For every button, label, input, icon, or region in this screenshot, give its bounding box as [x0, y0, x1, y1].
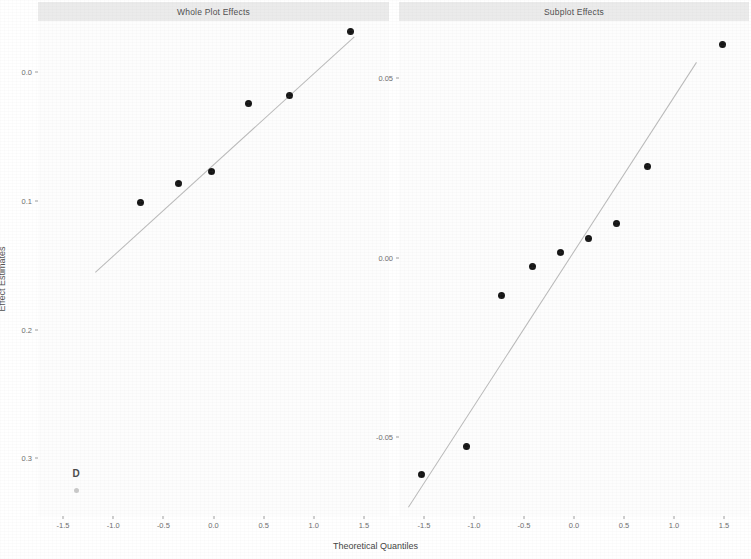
panel-subplot-effects	[399, 21, 749, 516]
data-point	[585, 235, 592, 242]
panel-title-subplot: Subplot Effects	[544, 7, 604, 17]
panel-title-whole-plot: Whole Plot Effects	[177, 7, 250, 17]
data-point	[644, 163, 651, 170]
x-axis-tick-label: -1.5	[418, 521, 431, 530]
x-axis-tick	[724, 516, 725, 519]
y-axis-tick-label: 0.2	[4, 325, 32, 334]
y-axis-tick	[396, 257, 399, 258]
x-axis-tick-label: 0.0	[569, 521, 579, 530]
qq-reference-line	[95, 36, 354, 272]
y-axis-tick	[35, 458, 38, 459]
y-axis-tick-label: 0.3	[4, 454, 32, 463]
x-axis-tick-label: 1.0	[309, 521, 319, 530]
data-point	[557, 249, 564, 256]
x-axis-tick	[313, 516, 314, 519]
data-point	[347, 28, 354, 35]
x-axis-tick	[163, 516, 164, 519]
x-axis-tick	[213, 516, 214, 519]
data-point	[463, 443, 470, 450]
x-axis-tick-label: -1.0	[468, 521, 481, 530]
y-axis-tick	[35, 72, 38, 73]
data-point	[245, 100, 252, 107]
y-axis-tick-label: 0.0	[4, 68, 32, 77]
panel-strip-whole-plot: Whole Plot Effects	[38, 2, 389, 21]
x-axis-tick-label: -0.5	[518, 521, 531, 530]
x-axis-tick	[474, 516, 475, 519]
x-axis-tick	[624, 516, 625, 519]
x-axis-tick	[363, 516, 364, 519]
data-point	[74, 488, 79, 493]
x-axis-tick-label: 1.5	[359, 521, 369, 530]
x-axis-tick-label: -1.5	[57, 521, 70, 530]
x-axis-tick	[524, 516, 525, 519]
data-point	[137, 199, 144, 206]
qq-plot-figure: Whole Plot Effects D Subplot Effects Eff…	[0, 0, 751, 559]
x-axis-tick-label: 0.0	[208, 521, 218, 530]
data-point	[719, 41, 726, 48]
y-axis-title: Effect Estimates	[0, 247, 7, 312]
y-axis-tick	[396, 437, 399, 438]
x-axis-tick-label: 1.0	[669, 521, 679, 530]
data-point	[208, 168, 215, 175]
x-axis-tick-label: -0.5	[157, 521, 170, 530]
x-axis-tick-label: 0.5	[258, 521, 268, 530]
data-point	[613, 220, 620, 227]
x-axis-tick	[63, 516, 64, 519]
y-axis-tick	[35, 201, 38, 202]
x-axis-tick	[113, 516, 114, 519]
x-axis-tick	[674, 516, 675, 519]
data-point	[286, 92, 293, 99]
y-axis-tick-label: -0.05	[365, 433, 393, 442]
data-point	[418, 471, 425, 478]
y-axis-tick	[396, 78, 399, 79]
x-axis-tick-label: 0.5	[619, 521, 629, 530]
data-point	[529, 263, 536, 270]
panel-whole-plot-effects: D	[38, 21, 389, 516]
point-annotation-d: D	[72, 468, 79, 479]
x-axis-tick-label: 1.5	[719, 521, 729, 530]
x-axis-tick-label: -1.0	[107, 521, 120, 530]
y-axis-tick-label: 0.05	[365, 74, 393, 83]
y-axis-tick-label: 0.00	[365, 253, 393, 262]
x-axis-title: Theoretical Quantiles	[0, 541, 751, 551]
qq-reference-line	[408, 62, 697, 507]
data-point	[498, 292, 505, 299]
panel-strip-subplot: Subplot Effects	[399, 2, 749, 21]
x-axis-tick	[424, 516, 425, 519]
x-axis-tick	[263, 516, 264, 519]
data-point	[175, 180, 182, 187]
x-axis-tick	[574, 516, 575, 519]
y-axis-tick	[35, 329, 38, 330]
y-axis-tick-label: 0.1	[4, 197, 32, 206]
